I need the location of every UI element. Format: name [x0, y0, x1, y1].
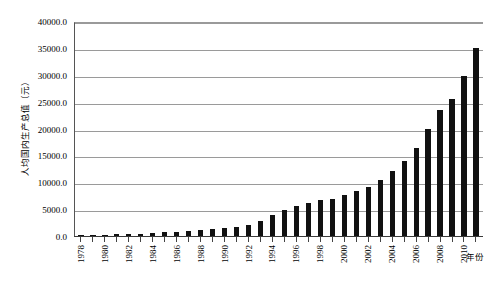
x-axis-tickmark: [116, 237, 117, 242]
bar-slot: [314, 22, 326, 237]
bar-slot: [326, 22, 338, 237]
x-axis-tickmark: [428, 237, 429, 242]
bar: [318, 200, 323, 237]
xlabel-slot: 1992: [243, 243, 255, 283]
xlabel-slot: [302, 243, 314, 283]
bar-slot: [135, 22, 147, 237]
xlabel-slot: [255, 243, 267, 283]
xlabel-slot: [87, 243, 99, 283]
bar-slot: [458, 22, 470, 237]
xlabel-slot: 2008: [434, 243, 446, 283]
x-axis-tick-label: 1992: [244, 245, 253, 263]
bar-slot: [302, 22, 314, 237]
x-axis-tickmark: [332, 237, 333, 242]
x-axis-tickmark: [164, 237, 165, 242]
bar: [473, 48, 478, 237]
x-axis-tickmark: [128, 237, 129, 242]
x-axis-tickmark: [475, 237, 476, 242]
bar: [414, 148, 419, 237]
xlabel-slot: 1986: [171, 243, 183, 283]
x-axis-tickmark: [296, 237, 297, 242]
bar: [437, 110, 442, 237]
bar-slot: [410, 22, 422, 237]
bar-slot: [183, 22, 195, 237]
y-axis-tick-label: 30000.0: [38, 71, 67, 80]
x-axis-tick-label: 1982: [124, 245, 133, 263]
x-axis-tickmark: [152, 237, 153, 242]
bar-slot: [171, 22, 183, 237]
x-axis-tick-label: 2008: [436, 245, 445, 263]
y-axis-tick-label: 15000.0: [38, 152, 67, 161]
x-axis-tick-label: 2004: [388, 245, 397, 263]
bar-slot: [87, 22, 99, 237]
bar: [366, 187, 371, 238]
x-axis-tick-label: 1986: [172, 245, 181, 263]
y-axis-tick-label: 25000.0: [38, 98, 67, 107]
xlabel-slot: [350, 243, 362, 283]
xlabel-slot: [231, 243, 243, 283]
x-axis-tickmark: [392, 237, 393, 242]
y-axis-tick-label: 40000.0: [38, 18, 67, 27]
x-axis-tickmark: [440, 237, 441, 242]
x-axis-tickmark: [463, 237, 464, 242]
xlabel-slot: [159, 243, 171, 283]
xlabel-slot: [422, 243, 434, 283]
xlabel-slot: 2000: [338, 243, 350, 283]
x-axis-tickmark: [320, 237, 321, 242]
bar: [378, 180, 383, 237]
bar-slot: [290, 22, 302, 237]
x-axis-tickmark: [284, 237, 285, 242]
bar-slot: [446, 22, 458, 237]
bar-slot: [207, 22, 219, 237]
xlabel-slot: [183, 243, 195, 283]
xlabel-slot: [111, 243, 123, 283]
bar-slot: [231, 22, 243, 237]
bar-slot: [422, 22, 434, 237]
x-axis-tickmark: [140, 237, 141, 242]
bar-slot: [434, 22, 446, 237]
x-axis-tick-label: 1978: [76, 245, 85, 263]
xlabel-slot: 1980: [99, 243, 111, 283]
xlabel-slot: 1982: [123, 243, 135, 283]
x-axis-tickmark: [92, 237, 93, 242]
x-axis-tickmark: [452, 237, 453, 242]
x-axis-tickmark: [224, 237, 225, 242]
x-axis-tick-label: 2000: [340, 245, 349, 263]
xlabel-slot: [135, 243, 147, 283]
bar-slot: [374, 22, 386, 237]
x-axis-tickmark: [344, 237, 345, 242]
x-axis-tick-label: 1980: [100, 245, 109, 263]
bar-series: [74, 22, 483, 237]
gdp-per-capita-bar-chart: 人均国内生产总值（元） 40000.035000.030000.025000.0…: [0, 0, 497, 288]
x-axis-tickmark: [200, 237, 201, 242]
bar: [449, 99, 454, 237]
x-axis-tickmark: [248, 237, 249, 242]
bar: [330, 199, 335, 237]
bar-slot: [267, 22, 279, 237]
x-axis-tickmark: [380, 237, 381, 242]
x-axis-tick-label: 1984: [148, 245, 157, 263]
y-axis-tick-label: 10000.0: [38, 179, 67, 188]
bar-slot: [470, 22, 482, 237]
xlabel-slot: 1988: [195, 243, 207, 283]
x-axis-tick-label: 1988: [196, 245, 205, 263]
x-axis-title: 年份: [466, 250, 484, 262]
x-axis-tickmark: [368, 237, 369, 242]
bar-slot: [99, 22, 111, 237]
x-axis-tick-label: 1990: [220, 245, 229, 263]
bar: [258, 221, 263, 237]
bar-slot: [243, 22, 255, 237]
bar: [270, 215, 275, 237]
x-axis-tick-labels: 1978198019821984198619881990199219941996…: [74, 243, 483, 283]
bar-slot: [362, 22, 374, 237]
bar-slot: [386, 22, 398, 237]
x-axis-tickmark: [416, 237, 417, 242]
xlabel-slot: 1978: [75, 243, 87, 283]
x-axis-tickmark: [308, 237, 309, 242]
bar-slot: [195, 22, 207, 237]
xlabel-slot: [398, 243, 410, 283]
y-axis-tick-label: 0.0: [56, 233, 67, 242]
bar-slot: [255, 22, 267, 237]
bar: [246, 225, 251, 237]
xlabel-slot: [278, 243, 290, 283]
